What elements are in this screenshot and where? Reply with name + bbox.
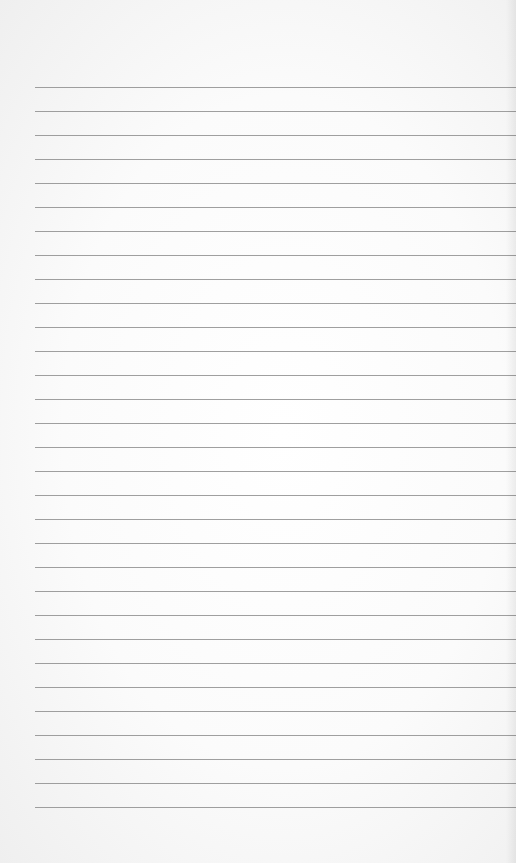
ruled-line [35, 183, 516, 184]
ruled-line [35, 495, 516, 496]
ruled-line [35, 207, 516, 208]
ruled-line [35, 807, 516, 808]
ruled-line [35, 471, 516, 472]
ruled-line [35, 519, 516, 520]
ruled-line [35, 231, 516, 232]
ruled-line [35, 591, 516, 592]
ruled-line [35, 783, 516, 784]
ruled-line [35, 399, 516, 400]
ruled-line [35, 159, 516, 160]
ruled-line [35, 423, 516, 424]
ruled-line [35, 711, 516, 712]
ruled-line [35, 735, 516, 736]
ruled-line [35, 567, 516, 568]
ruled-line [35, 375, 516, 376]
paper-edge-shadow [506, 0, 516, 863]
ruled-line [35, 135, 516, 136]
ruled-line [35, 327, 516, 328]
ruled-line [35, 663, 516, 664]
ruled-line [35, 351, 516, 352]
ruled-line [35, 279, 516, 280]
ruled-line [35, 255, 516, 256]
ruled-line [35, 303, 516, 304]
ruled-line [35, 111, 516, 112]
ruled-line [35, 87, 516, 88]
ruled-line [35, 543, 516, 544]
lined-paper-sheet [0, 0, 516, 863]
ruled-line [35, 759, 516, 760]
ruled-line [35, 447, 516, 448]
ruled-line [35, 639, 516, 640]
ruled-line [35, 687, 516, 688]
ruled-line [35, 615, 516, 616]
